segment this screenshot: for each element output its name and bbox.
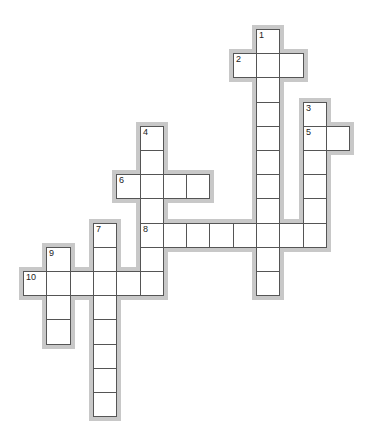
crossword-cell[interactable] (209, 223, 234, 248)
crossword-cell[interactable]: 5 (303, 126, 327, 151)
clue-number: 6 (119, 175, 124, 185)
crossword-cell[interactable] (93, 247, 117, 272)
crossword-cell[interactable] (140, 271, 164, 296)
crossword-cell[interactable]: 3 (303, 102, 327, 127)
clue-number: 9 (49, 248, 54, 258)
crossword-cell[interactable]: 2 (233, 53, 257, 78)
crossword-cell[interactable] (186, 174, 210, 199)
crossword-cell[interactable] (163, 223, 187, 248)
crossword-cell[interactable] (140, 174, 164, 199)
crossword-cell[interactable] (256, 150, 280, 175)
crossword-cell[interactable]: 9 (46, 247, 71, 272)
clue-number: 10 (26, 272, 36, 282)
crossword-cell[interactable]: 4 (140, 126, 164, 151)
crossword-cell[interactable] (303, 150, 327, 175)
crossword-cell[interactable] (303, 223, 327, 248)
crossword-cell[interactable] (93, 295, 117, 320)
crossword-cell[interactable] (93, 271, 117, 296)
crossword-cell[interactable] (140, 198, 164, 224)
clue-number: 5 (306, 127, 311, 137)
clue-number: 8 (143, 224, 148, 234)
crossword-cell[interactable] (279, 223, 304, 248)
crossword-cell[interactable] (70, 271, 94, 296)
crossword-cell[interactable] (186, 223, 210, 248)
crossword-cell[interactable] (93, 368, 117, 393)
clue-number: 3 (306, 103, 311, 113)
crossword-cell[interactable] (46, 319, 71, 345)
crossword-cell[interactable] (303, 198, 327, 224)
crossword-cell[interactable] (303, 174, 327, 199)
crossword-cell[interactable] (256, 198, 280, 224)
crossword-cell[interactable] (140, 247, 164, 272)
clue-number: 4 (143, 127, 148, 137)
crossword-cell[interactable] (46, 271, 71, 296)
crossword-cell[interactable]: 10 (23, 271, 47, 296)
crossword-cell[interactable] (116, 271, 141, 296)
crossword-cell[interactable] (256, 102, 280, 127)
crossword-cell[interactable] (256, 77, 280, 103)
crossword-cell[interactable] (256, 271, 280, 296)
clue-number: 1 (259, 30, 264, 40)
crossword-cell[interactable] (256, 53, 280, 78)
crossword-cell[interactable] (279, 53, 304, 78)
crossword-grid: 12354867910 (0, 0, 373, 442)
crossword-cell[interactable] (256, 247, 280, 272)
crossword-cell[interactable] (233, 223, 257, 248)
crossword-cell[interactable] (46, 295, 71, 320)
crossword-cell[interactable] (93, 319, 117, 345)
crossword-cell[interactable] (326, 126, 350, 151)
crossword-cell[interactable] (163, 174, 187, 199)
crossword-cell[interactable]: 7 (93, 223, 117, 248)
crossword-cell[interactable] (256, 174, 280, 199)
crossword-cell[interactable] (256, 126, 280, 151)
crossword-cell[interactable] (93, 392, 117, 417)
crossword-cell[interactable]: 1 (256, 29, 280, 54)
crossword-cell[interactable]: 8 (140, 223, 164, 248)
crossword-cell[interactable] (140, 150, 164, 175)
clue-number: 7 (96, 224, 101, 234)
crossword-cell[interactable] (93, 344, 117, 369)
crossword-cell[interactable] (256, 223, 280, 248)
crossword-cell[interactable]: 6 (116, 174, 141, 199)
clue-number: 2 (236, 54, 241, 64)
